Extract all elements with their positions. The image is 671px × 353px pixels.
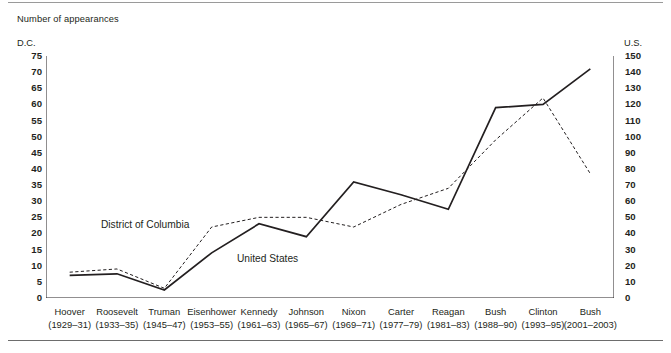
right-axis-tick-label: 50 bbox=[625, 212, 636, 222]
right-axis-tick-label: 40 bbox=[625, 228, 636, 238]
axis-spines bbox=[46, 56, 614, 298]
left-axis-tick-label: 75 bbox=[31, 51, 42, 61]
left-axis-tick-label: 65 bbox=[31, 83, 42, 93]
right-axis-tick-label: 150 bbox=[625, 51, 641, 61]
right-axis-tick-label: 10 bbox=[625, 277, 636, 287]
series-line-district-of-columbia bbox=[70, 98, 591, 288]
left-axis-tick-label: 35 bbox=[31, 180, 42, 190]
right-axis-tick-label: 140 bbox=[625, 67, 641, 77]
left-axis-tick-label: 15 bbox=[31, 245, 42, 255]
series-label-united-states: United States bbox=[237, 253, 298, 264]
right-axis-tick-labels: 0102030405060708090100110120130140150 bbox=[625, 0, 665, 353]
left-axis-tick-label: 5 bbox=[37, 277, 42, 287]
right-axis-tick-label: 90 bbox=[625, 148, 636, 158]
right-axis-tick-label: 120 bbox=[625, 99, 641, 109]
plot-area bbox=[46, 56, 614, 298]
x-axis-label-years: (2001–2003) bbox=[561, 319, 620, 332]
series-line-united-states bbox=[70, 69, 591, 290]
left-axis-tick-label: 55 bbox=[31, 116, 42, 126]
top-rule bbox=[8, 2, 663, 3]
left-axis-tick-label: 10 bbox=[31, 261, 42, 271]
right-axis-tick-label: 100 bbox=[625, 132, 641, 142]
right-axis-tick-label: 20 bbox=[625, 261, 636, 271]
left-axis-tick-label: 25 bbox=[31, 212, 42, 222]
x-axis-label-bush-11: Bush(2001–2003) bbox=[561, 306, 620, 331]
left-axis-tick-label: 70 bbox=[31, 67, 42, 77]
left-axis-tick-label: 45 bbox=[31, 148, 42, 158]
figure-container: Number of appearances D.C. U.S. 05101520… bbox=[0, 0, 671, 353]
right-axis-tick-label: 60 bbox=[625, 196, 636, 206]
chart-svg bbox=[46, 56, 614, 298]
left-axis-tick-label: 50 bbox=[31, 132, 42, 142]
bottom-rule bbox=[8, 340, 663, 341]
left-axis-tick-label: 60 bbox=[31, 99, 42, 109]
series-label-district-of-columbia: District of Columbia bbox=[101, 219, 189, 230]
left-axis-tick-label: 0 bbox=[37, 293, 42, 303]
x-axis-label-name: Bush bbox=[561, 306, 620, 319]
left-axis-tick-label: 20 bbox=[31, 228, 42, 238]
right-axis-tick-label: 0 bbox=[625, 293, 630, 303]
left-axis-tick-label: 40 bbox=[31, 164, 42, 174]
right-axis-tick-label: 30 bbox=[625, 245, 636, 255]
left-axis-tick-label: 30 bbox=[31, 196, 42, 206]
left-axis-tick-labels: 051015202530354045505560657075 bbox=[14, 0, 42, 353]
right-axis-tick-label: 70 bbox=[625, 180, 636, 190]
right-axis-tick-label: 110 bbox=[625, 116, 640, 126]
right-axis-tick-label: 80 bbox=[625, 164, 636, 174]
right-axis-tick-label: 130 bbox=[625, 83, 641, 93]
